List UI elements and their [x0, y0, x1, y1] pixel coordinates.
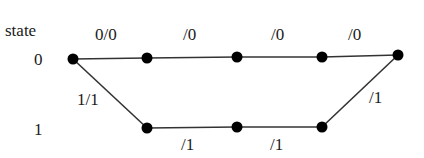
edge-label: /0 — [183, 26, 196, 43]
trellis-graph — [0, 0, 424, 158]
trellis-node — [317, 122, 328, 133]
trellis-node — [317, 52, 328, 63]
trellis-node — [68, 54, 79, 65]
trellis-node — [232, 122, 243, 133]
trellis-edge — [322, 55, 398, 127]
state-axis-label: state — [5, 22, 36, 39]
trellis-edge — [147, 127, 237, 128]
trellis-node — [142, 123, 153, 134]
trellis-edge — [322, 55, 398, 57]
edge-label: /1 — [181, 136, 194, 153]
trellis-edge — [147, 57, 237, 58]
state-label: 1 — [34, 121, 43, 138]
trellis-node — [393, 50, 404, 61]
trellis-edge — [73, 58, 147, 59]
state-label: 0 — [34, 51, 43, 68]
edge-label: /0 — [348, 26, 361, 43]
trellis-node — [232, 52, 243, 63]
trellis-diagram: state 010/0/0/0/01/1/1/1/1 — [0, 0, 424, 158]
edge-label: /1 — [369, 89, 382, 106]
edge-label: 1/1 — [77, 91, 99, 108]
edge-label: /0 — [271, 26, 284, 43]
trellis-node — [142, 53, 153, 64]
edge-label: /1 — [270, 136, 283, 153]
edge-label: 0/0 — [95, 26, 117, 43]
